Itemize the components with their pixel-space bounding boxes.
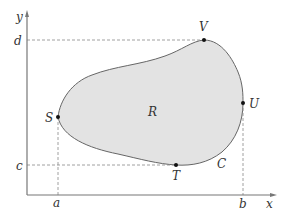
- tick-label-b: b: [239, 197, 247, 211]
- diagram-canvas: y x d c a b R C V U S T: [0, 0, 295, 220]
- tick-label-d: d: [14, 34, 22, 48]
- point-label-t: T: [172, 169, 181, 183]
- point-t: [174, 163, 178, 167]
- point-u: [241, 101, 245, 105]
- point-label-s: S: [45, 111, 53, 125]
- point-label-v: V: [199, 20, 209, 34]
- point-v: [202, 38, 206, 42]
- curve-label: C: [217, 157, 226, 171]
- y-axis-arrow-icon: [25, 10, 29, 17]
- region-diagram: y x d c a b R C V U S T: [0, 0, 295, 220]
- region-r: [58, 40, 243, 165]
- point-label-u: U: [249, 97, 260, 111]
- y-axis-label: y: [15, 10, 23, 24]
- tick-label-c: c: [16, 159, 23, 173]
- x-axis-label: x: [266, 197, 273, 211]
- point-s: [56, 115, 60, 119]
- tick-label-a: a: [53, 196, 60, 210]
- region-label: R: [147, 105, 157, 119]
